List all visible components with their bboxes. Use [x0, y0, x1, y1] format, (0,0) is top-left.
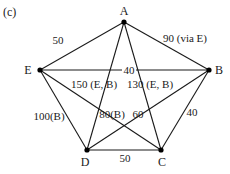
edge-a-b [124, 22, 209, 70]
node-label-b: B [215, 63, 223, 77]
node-b [206, 67, 211, 72]
edge-weight-label: 40 [187, 106, 199, 118]
weighted-graph-diagram: (c) 5090 (via E)40150 (E, B)130 (E, B)10… [0, 0, 230, 174]
edge-weight-label: 80(B) [99, 108, 125, 121]
edge-weight-label: 50 [120, 152, 132, 164]
panel-label: (c) [3, 5, 16, 19]
edge-labels-group: 5090 (via E)40150 (E, B)130 (E, B)100(B)… [33, 32, 207, 164]
edge-weight-label: 100(B) [33, 110, 65, 123]
node-label-e: E [24, 63, 31, 77]
node-a [121, 19, 126, 24]
nodes-group: ABCDE [24, 4, 223, 169]
node-label-a: A [120, 4, 129, 18]
edge-weight-label: 60 [133, 108, 145, 120]
edge-weight-label: 40 [124, 64, 136, 76]
node-d [84, 147, 89, 152]
edge-weight-label: 90 (via E) [163, 32, 207, 45]
node-e [37, 67, 42, 72]
node-label-c: C [158, 155, 166, 169]
node-label-d: D [81, 155, 90, 169]
edge-a-e [40, 22, 124, 70]
node-c [158, 147, 163, 152]
edge-weight-label: 150 (E, B) [71, 78, 117, 91]
edge-weight-label: 130 (E, B) [127, 78, 173, 91]
edge-weight-label: 50 [53, 34, 65, 46]
